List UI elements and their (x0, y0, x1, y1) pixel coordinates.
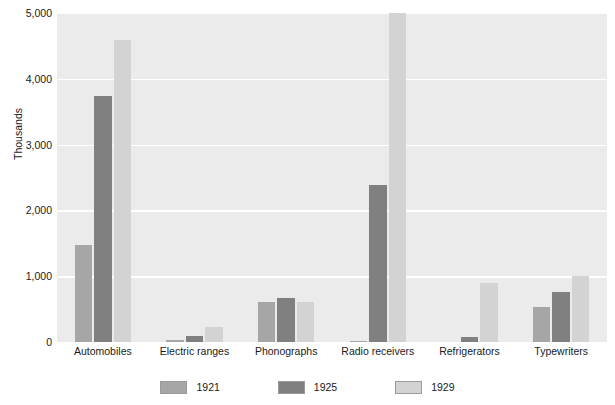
bar[interactable] (277, 298, 295, 342)
bar-group (350, 13, 407, 342)
x-axis-tick-labels: AutomobilesElectric rangesPhonographsRad… (57, 345, 607, 361)
y-axis-tick-label: 4,000 (0, 74, 52, 84)
bar[interactable] (186, 336, 204, 342)
x-axis-tick-label: Phonographs (240, 345, 332, 357)
bar[interactable] (369, 185, 387, 342)
bar[interactable] (572, 276, 590, 342)
bar[interactable] (166, 340, 184, 342)
legend-label: 1921 (196, 381, 219, 393)
bar[interactable] (114, 40, 132, 342)
bar-group (533, 13, 590, 342)
bar-group (166, 13, 223, 342)
x-axis-tick-label: Automobiles (57, 345, 149, 357)
legend-item[interactable]: 1921 (160, 381, 219, 394)
x-axis-tick-label: Electric ranges (149, 345, 241, 357)
gridline (57, 210, 607, 211)
bar[interactable] (297, 302, 315, 342)
gridline (57, 276, 607, 277)
chart-legend: 192119251929 (0, 378, 615, 396)
bar[interactable] (533, 307, 551, 342)
x-axis-tick-label: Refrigerators (424, 345, 516, 357)
y-axis-tick-label: 1,000 (0, 271, 52, 281)
legend-swatch (395, 381, 422, 394)
bar-group (441, 13, 498, 342)
bar-group (258, 13, 315, 342)
gridline (57, 145, 607, 146)
bar-group (75, 13, 132, 342)
legend-item[interactable]: 1929 (395, 381, 454, 394)
legend-item[interactable]: 1925 (278, 381, 337, 394)
bar[interactable] (205, 327, 223, 342)
gridline (57, 79, 607, 80)
bar[interactable] (94, 96, 112, 342)
plot-area (57, 13, 607, 342)
legend-label: 1929 (431, 381, 454, 393)
y-axis-tick-label: 3,000 (0, 140, 52, 150)
y-axis-tick-label: 0 (0, 337, 52, 347)
x-axis-tick-label: Radio receivers (332, 345, 424, 357)
bar[interactable] (552, 292, 570, 342)
legend-swatch (278, 381, 305, 394)
gridline (57, 13, 607, 14)
bar[interactable] (350, 341, 368, 342)
bar[interactable] (75, 245, 93, 342)
x-axis-tick-label: Typewriters (515, 345, 607, 357)
legend-label: 1925 (314, 381, 337, 393)
bar[interactable] (389, 13, 407, 342)
bar[interactable] (480, 283, 498, 342)
legend-swatch (160, 381, 187, 394)
y-axis-tick-label: 2,000 (0, 205, 52, 215)
bar[interactable] (258, 302, 276, 342)
y-axis-tick-label: 5,000 (0, 8, 52, 18)
y-axis-tick-labels: 01,0002,0003,0004,0005,000 (0, 0, 52, 405)
bar[interactable] (461, 337, 479, 342)
bar-chart: Thousands 01,0002,0003,0004,0005,000 Aut… (0, 0, 615, 405)
